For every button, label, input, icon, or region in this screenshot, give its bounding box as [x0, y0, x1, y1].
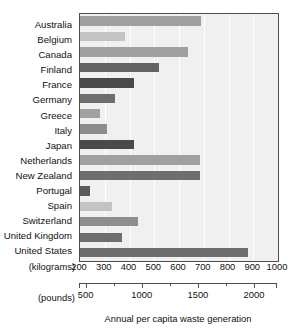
category-label: Australia — [0, 17, 76, 32]
category-label: Italy — [0, 123, 76, 138]
kg-tick-label: 200 — [71, 261, 87, 272]
x-axis-title: Annual per capita waste generation — [79, 313, 277, 324]
kilograms-axis: 2003004005006007008009001000 — [79, 261, 277, 275]
bar-row — [80, 184, 278, 199]
bar-row — [80, 122, 278, 137]
kilograms-unit-label: (kilograms) — [0, 261, 75, 272]
pounds-major-tick — [198, 283, 199, 288]
pounds-axis: 500100015002000 — [79, 283, 277, 299]
pounds-major-tick — [254, 283, 255, 288]
bar — [80, 63, 159, 72]
pounds-tick-label: 1000 — [131, 289, 152, 300]
pounds-unit-label: (pounds) — [0, 292, 75, 303]
pounds-axis-line — [79, 283, 277, 284]
bar-row — [80, 91, 278, 106]
category-label: United States — [0, 243, 76, 258]
bar — [80, 217, 138, 226]
bar — [80, 78, 134, 87]
bar-row — [80, 153, 278, 168]
kg-tick-label: 300 — [96, 261, 112, 272]
bar-row — [80, 60, 278, 75]
kg-tick-label: 900 — [244, 261, 260, 272]
bars-container — [80, 14, 278, 261]
category-label: Netherlands — [0, 153, 76, 168]
bar-row — [80, 138, 278, 153]
pounds-major-tick — [142, 283, 143, 288]
bar-row — [80, 199, 278, 214]
bar-row — [80, 168, 278, 183]
pounds-axis-endcap — [276, 283, 277, 288]
pounds-axis-endcap — [79, 283, 80, 288]
bar — [80, 186, 90, 195]
bar-chart: AustraliaBelgiumCanadaFinlandFranceGerma… — [0, 0, 297, 334]
bar-row — [80, 14, 278, 29]
bar-row — [80, 29, 278, 44]
category-label: France — [0, 77, 76, 92]
kg-tick-label: 1000 — [267, 261, 288, 272]
pounds-minor-tick — [114, 283, 115, 286]
bar — [80, 94, 115, 103]
category-label: Switzerland — [0, 213, 76, 228]
category-label: Japan — [0, 138, 76, 153]
category-label: New Zealand — [0, 168, 76, 183]
bar-row — [80, 45, 278, 60]
pounds-tick-label: 1500 — [187, 289, 208, 300]
kg-tick-label: 400 — [121, 261, 137, 272]
category-label: Spain — [0, 198, 76, 213]
pounds-major-tick — [86, 283, 87, 288]
bar — [80, 155, 200, 164]
category-label: Greece — [0, 108, 76, 123]
kg-tick-label: 700 — [195, 261, 211, 272]
bar — [80, 47, 188, 56]
pounds-tick-label: 500 — [78, 289, 94, 300]
category-label: Belgium — [0, 32, 76, 47]
plot-area — [79, 13, 279, 262]
bar — [80, 109, 100, 118]
bar — [80, 140, 134, 149]
bar-row — [80, 107, 278, 122]
bar — [80, 233, 122, 242]
bar-row — [80, 230, 278, 245]
kg-tick-label: 600 — [170, 261, 186, 272]
bar — [80, 171, 200, 180]
category-label: Germany — [0, 92, 76, 107]
pounds-minor-tick — [170, 283, 171, 286]
category-label: Portugal — [0, 183, 76, 198]
bar — [80, 32, 125, 41]
category-label: United Kingdom — [0, 228, 76, 243]
bar — [80, 202, 112, 211]
kg-tick-label: 800 — [220, 261, 236, 272]
bar-row — [80, 215, 278, 230]
category-axis-labels: AustraliaBelgiumCanadaFinlandFranceGerma… — [0, 17, 76, 259]
bar — [80, 124, 107, 133]
pounds-minor-tick — [226, 283, 227, 286]
kg-tick-label: 500 — [145, 261, 161, 272]
bar-row — [80, 246, 278, 261]
bar — [80, 248, 248, 257]
bar — [80, 16, 201, 25]
pounds-tick-label: 2000 — [244, 289, 265, 300]
bar-row — [80, 76, 278, 91]
category-label: Canada — [0, 47, 76, 62]
category-label: Finland — [0, 62, 76, 77]
